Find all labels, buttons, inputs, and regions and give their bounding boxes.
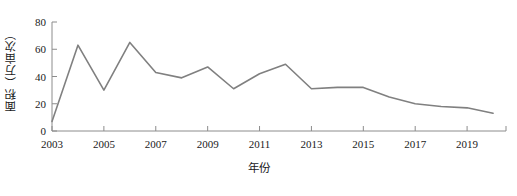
x-tick-label: 2011 <box>249 138 271 150</box>
x-tick-label: 2015 <box>352 138 375 150</box>
x-axis-ticks: 200320052007200920112013201520172019 <box>41 126 479 150</box>
x-tick-label: 2007 <box>145 138 168 150</box>
y-tick-label: 40 <box>35 71 47 83</box>
y-tick-label: 0 <box>41 125 47 137</box>
line-chart: 面积（万亩次） 020406080 2003200520072009201120… <box>0 0 517 196</box>
y-tick-label: 80 <box>35 16 47 28</box>
x-tick-label: 2017 <box>404 138 427 150</box>
x-tick-label: 2009 <box>197 138 220 150</box>
x-tick-label: 2013 <box>300 138 323 150</box>
y-tick-label: 20 <box>35 98 47 110</box>
x-tick-label: 2003 <box>41 138 64 150</box>
y-tick-label: 60 <box>35 43 47 55</box>
x-axis-title: 年份 <box>0 163 517 175</box>
x-tick-label: 2019 <box>456 138 479 150</box>
x-tick-label: 2005 <box>93 138 116 150</box>
data-series-line <box>52 42 493 121</box>
